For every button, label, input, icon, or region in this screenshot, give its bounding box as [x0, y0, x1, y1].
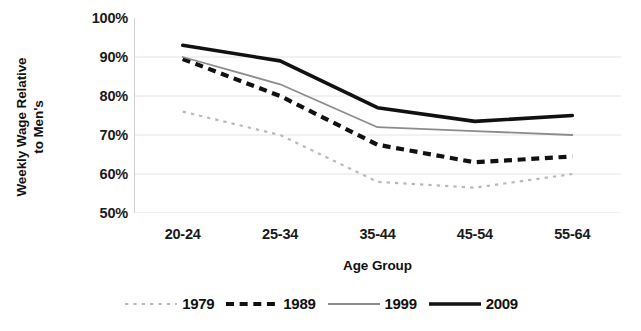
x-axis-tick-labels: 20-2425-3435-4445-5455-64 — [134, 226, 621, 248]
legend-item-1979[interactable]: 1979 — [123, 296, 214, 311]
y-axis-title-line2: to Men's — [30, 17, 47, 237]
x-axis-tick-label: 20-24 — [165, 226, 201, 242]
legend-label: 1979 — [182, 296, 214, 311]
y-axis-tick-label: 100% — [66, 11, 128, 25]
y-axis-tick-label: 70% — [66, 128, 128, 142]
y-axis-tick-label: 80% — [66, 89, 128, 103]
legend-swatch-2009 — [427, 297, 483, 311]
legend-label: 1999 — [385, 296, 417, 311]
y-axis-tick-label: 60% — [66, 167, 128, 181]
series-line-1979 — [183, 112, 573, 188]
legend-item-2009[interactable]: 2009 — [427, 296, 518, 311]
plot-area — [134, 18, 621, 213]
legend-label: 1989 — [283, 296, 315, 311]
y-axis-tick-label: 50% — [66, 206, 128, 220]
y-axis-tick-labels: 50%60%70%80%90%100% — [66, 0, 128, 231]
line-chart: Weekly Wage Relative to Men's 50%60%70%8… — [0, 0, 641, 331]
x-axis-tick-label: 55-64 — [554, 226, 590, 242]
series-line-1989 — [183, 59, 573, 162]
y-axis-title-line1: Weekly Wage Relative — [14, 57, 29, 196]
chart-legend: 1979198919992009 — [0, 296, 641, 311]
x-axis-title: Age Group — [134, 258, 621, 273]
x-axis-tick-label: 35-44 — [359, 226, 395, 242]
y-axis-title: Weekly Wage Relative to Men's — [13, 17, 47, 237]
legend-item-1989[interactable]: 1989 — [224, 296, 315, 311]
legend-label: 2009 — [486, 296, 518, 311]
legend-swatch-1999 — [326, 297, 382, 311]
legend-item-1999[interactable]: 1999 — [326, 296, 417, 311]
legend-swatch-1979 — [123, 297, 179, 311]
gridlines — [134, 57, 621, 213]
y-axis-tick-label: 90% — [66, 50, 128, 64]
x-axis-tick-label: 25-34 — [262, 226, 298, 242]
plot-svg — [134, 18, 621, 213]
x-axis-tick-label: 45-54 — [457, 226, 493, 242]
legend-swatch-1989 — [224, 297, 280, 311]
